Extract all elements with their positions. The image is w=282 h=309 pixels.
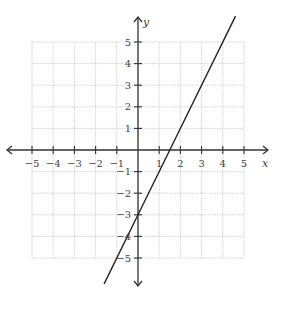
- x-axis-label: x: [262, 157, 269, 170]
- y-tick-label: −3: [116, 209, 131, 220]
- y-tick-label: 3: [125, 80, 131, 91]
- y-tick-label: 5: [125, 37, 131, 48]
- y-axis-label: y: [142, 16, 150, 29]
- y-tick-label: 2: [125, 101, 131, 112]
- y-tick-label: −1: [116, 166, 131, 177]
- x-tick-label: −4: [46, 158, 61, 169]
- coordinate-plane: −5−4−3−2−112345−5−4−3−2−112345 x y: [0, 0, 282, 309]
- x-tick-label: −2: [88, 158, 103, 169]
- x-tick-label: 4: [220, 158, 226, 169]
- x-tick-label: −3: [67, 158, 82, 169]
- axes: [7, 17, 268, 286]
- y-tick-label: 1: [125, 123, 131, 134]
- y-tick-label: 4: [125, 58, 131, 69]
- x-tick-label: 3: [198, 158, 204, 169]
- y-tick-label: −2: [116, 188, 131, 199]
- x-tick-label: 2: [177, 158, 183, 169]
- x-tick-label: 5: [241, 158, 247, 169]
- x-tick-label: −5: [25, 158, 40, 169]
